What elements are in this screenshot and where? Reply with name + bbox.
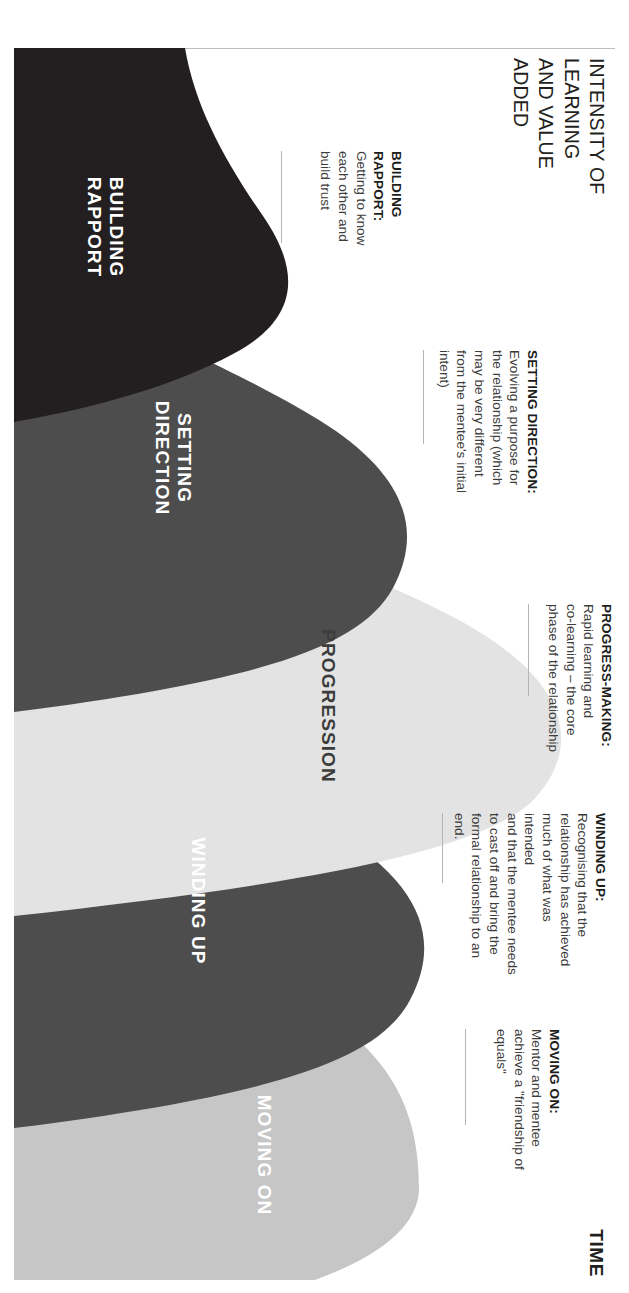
annotation-body: Mentor and mentee achieve a "friendship …	[492, 1029, 545, 1179]
annotation-heading: SETTING DIRECTION:	[523, 350, 541, 526]
annotation-body: Getting to know each other and build tru…	[317, 151, 370, 263]
annotation-heading: PROGRESS-MAKING:	[597, 604, 615, 796]
annotation-building-rapport: BUILDING RAPPORT: Getting to know each o…	[317, 151, 405, 263]
annotation-moving-on: MOVING ON: Mentor and mentee achieve a "…	[492, 1029, 563, 1179]
leader-line-moving-on	[465, 1029, 466, 1125]
annotation-body: Evolving a purpose for the relationship …	[435, 350, 523, 526]
annotation-body: Rapid learning and co-learning – the cor…	[544, 604, 597, 796]
leader-line-winding-up	[442, 813, 443, 883]
annotation-heading: BUILDING RAPPORT:	[370, 151, 405, 263]
leader-line-setting-direction	[423, 350, 424, 444]
annotation-heading: WINDING UP:	[591, 813, 609, 977]
leader-line-progress-making	[528, 604, 529, 696]
annotation-progress-making: PROGRESS-MAKING: Rapid learning and co-l…	[544, 604, 615, 796]
annotation-heading: MOVING ON:	[545, 1029, 563, 1179]
wave-shape-building-rapport	[14, 48, 288, 422]
annotation-winding-up: WINDING UP: Recognising that the relatio…	[450, 813, 609, 977]
leader-line-building-rapport	[281, 151, 282, 243]
annotation-body: Recognising that the relationship has ac…	[450, 813, 591, 977]
diagram-canvas: INTENSITY OF LEARNING AND VALUE ADDED TI…	[0, 0, 629, 1293]
annotation-setting-direction: SETTING DIRECTION: Evolving a purpose fo…	[435, 350, 541, 526]
